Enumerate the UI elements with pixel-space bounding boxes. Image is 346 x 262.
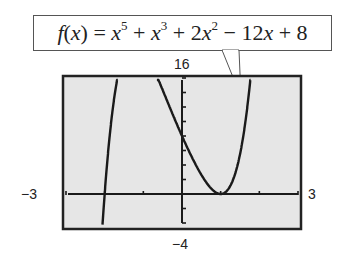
- graph-svg: [0, 0, 346, 262]
- xmax-label: 3: [308, 186, 316, 202]
- ymin-label: −4: [172, 236, 188, 252]
- ymax-label: 16: [174, 56, 190, 72]
- xmin-label: −3: [21, 186, 37, 202]
